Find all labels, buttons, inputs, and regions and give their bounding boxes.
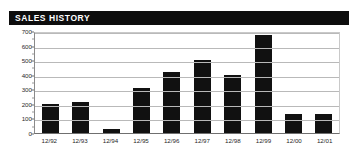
- gridline: [35, 120, 339, 121]
- bar-12-94[interactable]: [103, 129, 120, 133]
- x-axis-tick-label: 12/97: [187, 138, 218, 150]
- x-axis-tick-label: 12/95: [126, 138, 157, 150]
- gridline: [35, 77, 339, 78]
- gridline: [35, 106, 339, 107]
- gridline: [35, 62, 339, 63]
- y-axis-tick-label: 200: [10, 102, 32, 108]
- bar-12-01[interactable]: [315, 114, 332, 133]
- x-axis-tick-label: 12/99: [248, 138, 279, 150]
- x-axis-tick-label: 12/96: [156, 138, 187, 150]
- gridline: [35, 48, 339, 49]
- page-title: SALES HISTORY: [9, 14, 90, 23]
- bar-12-97[interactable]: [194, 60, 211, 133]
- x-axis: 12/9212/9312/9412/9512/9612/9712/9812/99…: [34, 138, 340, 150]
- y-axis-tick-label: 400: [10, 73, 32, 79]
- y-axis-tick-label: 100: [10, 116, 32, 122]
- bar-12-98[interactable]: [224, 75, 241, 133]
- y-axis-tick-label: 500: [10, 58, 32, 64]
- x-axis-tick-label: 12/94: [95, 138, 126, 150]
- chart-plot-area: [34, 32, 340, 134]
- y-axis-tick-label: 0: [10, 131, 32, 137]
- y-axis-tick-label: 300: [10, 87, 32, 93]
- x-axis-tick-label: 12/98: [218, 138, 249, 150]
- bar-12-96[interactable]: [163, 72, 180, 133]
- y-axis: 7006005004003002001000: [9, 32, 32, 134]
- bar-12-00[interactable]: [285, 114, 302, 133]
- gridline: [35, 91, 339, 92]
- y-axis-tick-label: 700: [10, 29, 32, 35]
- bar-12-99[interactable]: [255, 35, 272, 133]
- sales-history-chart: 7006005004003002001000 12/9212/9312/9412…: [9, 28, 349, 150]
- bar-12-92[interactable]: [42, 104, 59, 133]
- bar-12-95[interactable]: [133, 88, 150, 133]
- sales-history-panel: SALES HISTORY 7006005004003002001000 12/…: [0, 0, 358, 154]
- y-axis-tick-label: 600: [10, 43, 32, 49]
- x-axis-tick-label: 12/01: [309, 138, 340, 150]
- panel-title-bar: SALES HISTORY: [9, 11, 349, 25]
- x-axis-tick-label: 12/00: [279, 138, 310, 150]
- x-axis-tick-label: 12/93: [65, 138, 96, 150]
- x-axis-tick-label: 12/92: [34, 138, 65, 150]
- gridline: [35, 33, 339, 34]
